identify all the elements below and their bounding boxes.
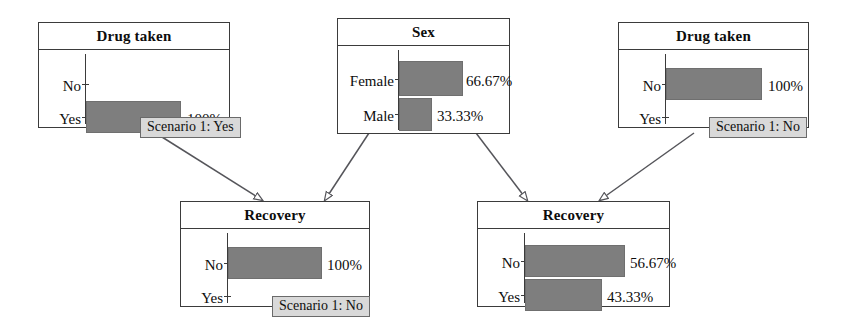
node-title: Recovery	[478, 202, 669, 229]
node-drug-taken-left[interactable]: Drug taken No Yes 100%	[38, 22, 230, 128]
node-sex[interactable]: Sex Female 66.67% Male 33.33%	[337, 18, 510, 134]
category-label-female: Female	[338, 74, 394, 89]
bar-yes	[525, 279, 602, 311]
bar-male	[399, 98, 432, 131]
category-label-no: No	[478, 256, 520, 271]
bar-no	[525, 245, 625, 277]
axis-tick-yes	[662, 117, 669, 118]
node-drug-taken-right[interactable]: Drug taken No 100% Yes	[618, 22, 809, 128]
category-label-male: Male	[338, 109, 394, 124]
bar-value-male: 33.33%	[437, 109, 483, 124]
bar-value-no: 100%	[327, 258, 362, 273]
axis-tick-no	[82, 84, 89, 85]
badge-scenario-drug-right[interactable]: Scenario 1: No	[709, 117, 807, 138]
edge-drugright-to-recoveryright	[600, 133, 694, 200]
category-label-yes: Yes	[619, 112, 661, 127]
bar-no	[666, 68, 762, 100]
node-plot: Female 66.67% Male 33.33%	[338, 46, 509, 134]
edge-drugleft-to-recoveryleft	[162, 137, 262, 200]
axis-tick-yes	[224, 296, 231, 297]
diagram-canvas: Drug taken No Yes 100% Scenario 1: Yes S…	[0, 0, 847, 335]
node-recovery-right[interactable]: Recovery No 56.67% Yes 43.33%	[477, 201, 670, 307]
category-label-no: No	[181, 258, 223, 273]
edge-sex-to-recoveryright	[476, 133, 527, 200]
badge-scenario-drug-left[interactable]: Scenario 1: Yes	[140, 117, 241, 138]
node-recovery-left[interactable]: Recovery No 100% Yes	[180, 201, 370, 307]
category-label-yes: Yes	[39, 112, 81, 127]
category-label-yes: Yes	[478, 290, 520, 305]
category-label-no: No	[619, 79, 661, 94]
bar-value-no: 100%	[768, 79, 803, 94]
node-title: Sex	[338, 19, 509, 46]
node-title: Drug taken	[39, 23, 229, 50]
badge-scenario-recovery-left[interactable]: Scenario 1: No	[272, 296, 370, 317]
node-plot: No 56.67% Yes 43.33%	[478, 229, 669, 307]
bar-value-yes: 43.33%	[607, 290, 653, 305]
edge-sex-to-recoveryleft	[325, 133, 369, 200]
node-title: Recovery	[181, 202, 369, 229]
bar-value-female: 66.67%	[466, 74, 512, 89]
bar-no	[228, 247, 322, 279]
bar-female	[399, 61, 463, 96]
node-title: Drug taken	[619, 23, 808, 50]
category-label-yes: Yes	[181, 291, 223, 306]
category-label-no: No	[39, 79, 81, 94]
bar-value-no: 56.67%	[630, 256, 676, 271]
